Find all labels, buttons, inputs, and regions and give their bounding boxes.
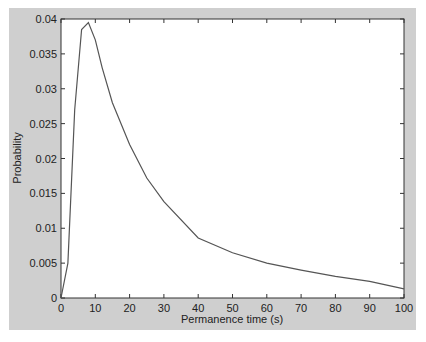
x-tick-label: 30 (158, 302, 170, 314)
x-tick-label: 10 (89, 302, 101, 314)
y-tick-label: 0.005 (29, 257, 57, 269)
x-tick-label: 80 (329, 302, 341, 314)
x-tick-label: 70 (295, 302, 307, 314)
y-tick-label: 0.025 (29, 118, 57, 130)
y-tick-label: 0.01 (36, 222, 57, 234)
x-tick-label: 100 (395, 302, 413, 314)
y-tick-label: 0 (51, 292, 57, 304)
x-axis-label: Permanence time (s) (181, 313, 283, 325)
plot-area (61, 19, 404, 298)
x-tick-label: 90 (364, 302, 376, 314)
y-tick-label: 0.035 (29, 48, 57, 60)
y-tick-label: 0.04 (36, 13, 57, 25)
y-tick-label: 0.02 (36, 153, 57, 165)
y-axis-label: Probability (11, 132, 23, 184)
y-tick-label: 0.03 (36, 83, 57, 95)
y-tick-label: 0.015 (29, 187, 57, 199)
x-tick-label: 0 (58, 302, 64, 314)
line-chart: 0102030405060708090100 00.0050.010.0150.… (0, 0, 426, 342)
x-tick-label: 20 (123, 302, 135, 314)
